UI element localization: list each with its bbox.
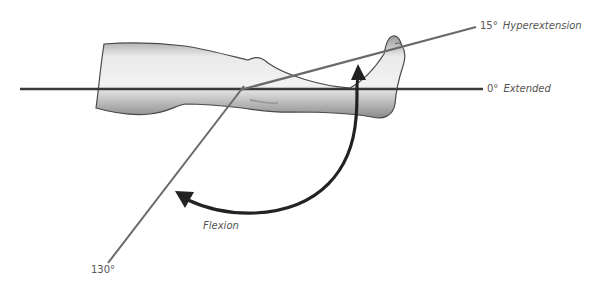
flexion-degrees-label: 130° — [91, 265, 115, 275]
arrowhead-left-icon — [175, 191, 194, 208]
knee-rom-diagram — [0, 0, 603, 295]
flexion-label: Flexion — [203, 221, 239, 231]
hyperextension-degrees: 15° — [480, 20, 498, 31]
extended-text: Extended — [503, 83, 551, 94]
hyperextension-label: 15°Hyperextension — [480, 21, 582, 31]
arrowhead-up-icon — [351, 64, 366, 80]
hyperextension-text: Hyperextension — [503, 20, 582, 31]
extended-degrees: 0° — [487, 83, 498, 94]
extended-label: 0°Extended — [487, 84, 551, 94]
